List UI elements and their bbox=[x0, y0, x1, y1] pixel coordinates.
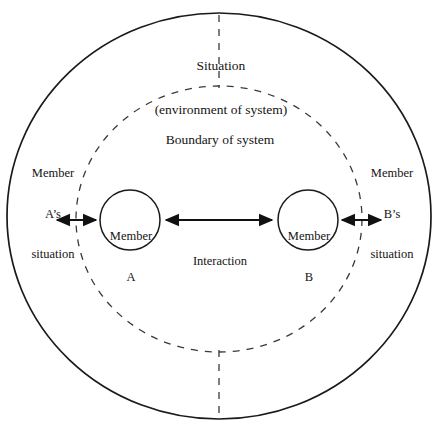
member-b-situation-label: Member B’s situation bbox=[351, 140, 433, 289]
member-a-situation-label-line3: situation bbox=[12, 248, 94, 262]
member-a-situation-label-line2: A’s bbox=[12, 208, 94, 222]
member-a-node-label-line1: Member bbox=[100, 230, 162, 244]
situation-label-line1: Situation bbox=[133, 59, 309, 74]
member-b-node-label: Member B bbox=[278, 203, 340, 311]
member-b-situation-label-line3: situation bbox=[351, 248, 433, 262]
boundary-of-system-label-text: Boundary of system bbox=[131, 133, 309, 148]
member-a-situation-label: Member A’s situation bbox=[12, 140, 94, 289]
member-a-situation-label-line1: Member bbox=[12, 167, 94, 181]
boundary-of-system-label: Boundary of system bbox=[131, 104, 309, 177]
member-a-node-label: Member A bbox=[100, 203, 162, 311]
interaction-label: Interaction bbox=[170, 228, 270, 296]
member-b-node-label-line2: B bbox=[278, 271, 340, 285]
interaction-label-text: Interaction bbox=[170, 255, 270, 269]
member-b-node-label-line1: Member bbox=[278, 230, 340, 244]
member-b-situation-label-line2: B’s bbox=[351, 208, 433, 222]
member-a-node-label-line2: A bbox=[100, 271, 162, 285]
system-boundary-diagram: Situation (environment of system) Bounda… bbox=[0, 0, 441, 428]
member-b-situation-label-line1: Member bbox=[351, 167, 433, 181]
